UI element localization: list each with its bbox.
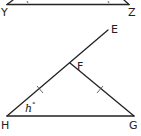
triangle-xyz-partial: Y Z bbox=[0, 0, 136, 19]
label-g: G bbox=[129, 119, 138, 132]
segment-z-up bbox=[124, 0, 129, 5]
segment-y-up bbox=[7, 0, 13, 5]
label-f: F bbox=[77, 60, 83, 73]
ray-he bbox=[7, 30, 108, 116]
degree-symbol: ° bbox=[32, 101, 36, 109]
label-y: Y bbox=[0, 6, 8, 19]
label-h: H bbox=[1, 119, 9, 132]
label-e: E bbox=[111, 23, 118, 36]
tick-mark-z bbox=[108, 1, 109, 3]
tick-mark-y bbox=[27, 1, 28, 3]
label-z: Z bbox=[128, 6, 136, 19]
geometry-diagram: Y Z E F H G h ° bbox=[0, 0, 141, 136]
triangle-hfg: E F H G h ° bbox=[1, 23, 138, 132]
